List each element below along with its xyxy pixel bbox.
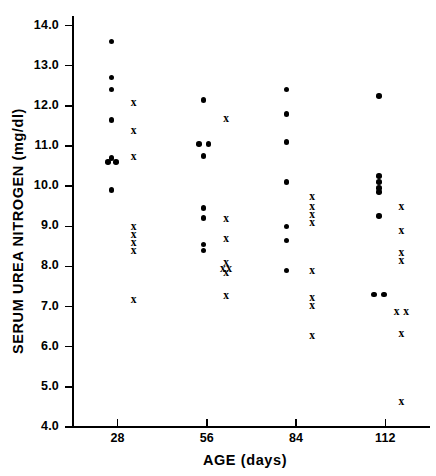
y-axis-line [72, 16, 74, 428]
data-point-dot [376, 173, 382, 179]
data-point-cross: x [221, 266, 231, 278]
data-point-cross: x [396, 254, 406, 266]
data-point-dot [201, 215, 207, 221]
data-point-dot [284, 139, 290, 145]
data-point-cross: x [396, 200, 406, 212]
data-point-dot [201, 242, 207, 248]
data-point-dot [284, 238, 290, 244]
data-point-cross: x [307, 299, 317, 311]
data-point-dot [113, 159, 119, 165]
data-point-dot [284, 87, 290, 93]
data-point-cross: x [307, 329, 317, 341]
y-tick-label: 14.0 [19, 18, 59, 32]
data-point-dot [381, 292, 387, 298]
data-point-cross: x [401, 305, 411, 317]
y-tick-label: 11.0 [19, 138, 59, 152]
x-tick-mark [295, 419, 297, 426]
data-point-cross: x [396, 224, 406, 236]
y-tick-label: 6.0 [19, 339, 59, 353]
x-axis-line [72, 426, 430, 428]
data-point-dot [376, 93, 382, 99]
data-point-dot [201, 248, 207, 254]
y-tick-mark [65, 386, 72, 388]
data-point-dot [284, 179, 290, 185]
x-tick-mark [206, 419, 208, 426]
y-tick-mark [65, 105, 72, 107]
data-point-dot [109, 39, 115, 45]
data-point-dot [109, 75, 115, 81]
data-point-dot [196, 141, 202, 147]
data-point-dot [371, 292, 377, 298]
data-point-dot [109, 187, 115, 193]
data-point-cross: x [129, 293, 139, 305]
y-tick-label: 7.0 [19, 299, 59, 313]
y-tick-mark [65, 145, 72, 147]
x-axis-title: AGE (days) [80, 452, 410, 468]
x-tick-mark [385, 419, 387, 426]
data-point-cross: x [392, 305, 402, 317]
data-point-dot [376, 213, 382, 219]
data-point-cross: x [129, 96, 139, 108]
data-point-dot [376, 189, 382, 195]
y-tick-mark [65, 25, 72, 27]
x-tick-label: 56 [187, 431, 227, 445]
data-point-cross: x [307, 264, 317, 276]
x-tick-mark [117, 419, 119, 426]
y-tick-label: 13.0 [19, 58, 59, 72]
data-point-dot [284, 268, 290, 274]
data-point-dot [284, 224, 290, 230]
data-point-dot [109, 117, 115, 123]
data-point-cross: x [221, 289, 231, 301]
data-point-dot [105, 159, 111, 165]
data-point-dot [201, 205, 207, 211]
data-point-dot [376, 179, 382, 185]
data-point-cross: x [307, 216, 317, 228]
data-point-cross: x [129, 124, 139, 136]
y-tick-mark [65, 226, 72, 228]
y-tick-mark [65, 185, 72, 187]
data-point-cross: x [129, 244, 139, 256]
y-tick-label: 10.0 [19, 178, 59, 192]
y-tick-label: 4.0 [19, 419, 59, 433]
y-tick-mark [65, 65, 72, 67]
y-tick-label: 9.0 [19, 218, 59, 232]
y-tick-label: 5.0 [19, 379, 59, 393]
data-point-dot [284, 111, 290, 117]
data-point-cross: x [396, 395, 406, 407]
y-tick-mark [65, 426, 72, 428]
data-point-dot [109, 87, 115, 93]
y-tick-mark [65, 306, 72, 308]
data-point-cross: x [396, 327, 406, 339]
y-tick-mark [65, 266, 72, 268]
data-point-cross: x [221, 232, 231, 244]
y-tick-label: 8.0 [19, 258, 59, 272]
data-point-cross: x [221, 212, 231, 224]
y-tick-mark [65, 346, 72, 348]
data-point-dot [206, 141, 212, 147]
data-point-dot [201, 153, 207, 159]
x-tick-label: 84 [276, 431, 316, 445]
data-point-cross: x [129, 150, 139, 162]
data-point-dot [201, 97, 207, 103]
x-tick-label: 28 [98, 431, 138, 445]
data-point-cross: x [221, 112, 231, 124]
x-tick-label: 112 [365, 431, 405, 445]
y-tick-label: 12.0 [19, 98, 59, 112]
scatter-plot-figure: SERUM UREA NITROGEN (mg/dl) AGE (days) 4… [0, 0, 436, 476]
